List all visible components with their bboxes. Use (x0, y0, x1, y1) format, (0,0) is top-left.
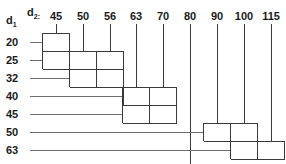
row-leader-lines (30, 42, 231, 150)
compatibility-chart: d1 d2: 45505663708090100115 202532404550… (0, 0, 286, 164)
chart-linework (0, 0, 286, 164)
column-tick-lines (56, 24, 271, 164)
